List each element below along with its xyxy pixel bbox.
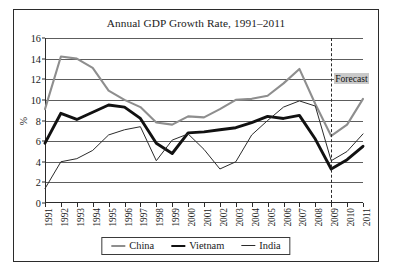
- y-tick-label: 10: [31, 94, 41, 105]
- legend-item-india: India: [241, 240, 280, 251]
- legend-label-india: India: [259, 240, 280, 251]
- x-tick-label: 2008: [314, 208, 324, 227]
- x-tick-label: 2005: [267, 208, 277, 227]
- india-line-swatch-icon: [241, 245, 255, 246]
- y-tick-label: 16: [31, 33, 41, 44]
- x-tick-label: 1994: [92, 208, 102, 227]
- y-tick-label: 8: [36, 115, 41, 126]
- x-tick-mark: [109, 203, 110, 207]
- x-tick-label: 2010: [346, 208, 356, 227]
- x-tick-label: 1997: [139, 208, 149, 227]
- x-tick-mark: [77, 203, 78, 207]
- x-tick-label: 2006: [283, 208, 293, 227]
- x-tick-label: 2003: [235, 208, 245, 227]
- x-tick-label: 1992: [60, 208, 70, 227]
- x-tick-mark: [93, 203, 94, 207]
- series-line-vietnam: [45, 105, 363, 169]
- series-line-india: [45, 101, 363, 189]
- x-tick-mark: [204, 203, 205, 207]
- x-tick-label: 1993: [76, 208, 86, 227]
- x-tick-mark: [252, 203, 253, 207]
- vietnam-line-swatch-icon: [171, 245, 185, 247]
- x-tick-label: 1999: [171, 208, 181, 227]
- x-tick-mark: [236, 203, 237, 207]
- y-tick-label: 4: [36, 156, 41, 167]
- y-tick-label: 2: [36, 177, 41, 188]
- china-line-swatch-icon: [111, 245, 125, 247]
- y-tick-label: 0: [36, 198, 41, 209]
- x-tick-mark: [363, 203, 364, 207]
- x-tick-label: 2000: [187, 208, 197, 227]
- x-tick-label: 1991: [44, 208, 54, 227]
- plot-area: 0246810121416 19911992199319941995199619…: [45, 38, 363, 203]
- forecast-label: Forecast: [334, 73, 369, 84]
- chart-legend: China Vietnam India: [101, 237, 290, 255]
- y-tick-label: 12: [31, 74, 41, 85]
- x-tick-label: 1996: [124, 208, 134, 227]
- x-tick-mark: [172, 203, 173, 207]
- x-tick-mark: [268, 203, 269, 207]
- x-tick-label: 2009: [330, 208, 340, 227]
- chart-title: Annual GDP Growth Rate, 1991–2011: [14, 17, 378, 29]
- legend-item-china: China: [111, 240, 154, 251]
- x-tick-mark: [188, 203, 189, 207]
- x-tick-mark: [331, 203, 332, 207]
- forecast-divider-line: [331, 38, 332, 203]
- series-lines-group: [45, 38, 363, 203]
- x-tick-mark: [315, 203, 316, 207]
- x-tick-label: 1998: [155, 208, 165, 227]
- x-tick-label: 2011: [362, 208, 372, 226]
- x-tick-mark: [220, 203, 221, 207]
- y-tick-label: 14: [31, 53, 41, 64]
- y-tick-label: 6: [36, 136, 41, 147]
- y-axis-title: %: [18, 116, 29, 124]
- legend-item-vietnam: Vietnam: [171, 240, 224, 251]
- x-tick-label: 2004: [251, 208, 261, 227]
- series-line-china: [45, 57, 363, 136]
- x-tick-mark: [347, 203, 348, 207]
- x-tick-mark: [140, 203, 141, 207]
- legend-label-vietnam: Vietnam: [189, 240, 224, 251]
- x-tick-mark: [125, 203, 126, 207]
- x-tick-label: 2002: [219, 208, 229, 227]
- legend-label-china: China: [129, 240, 154, 251]
- x-tick-label: 2007: [298, 208, 308, 227]
- x-tick-mark: [61, 203, 62, 207]
- chart-frame: Annual GDP Growth Rate, 1991–2011 024681…: [13, 9, 379, 262]
- x-tick-mark: [156, 203, 157, 207]
- x-tick-mark: [299, 203, 300, 207]
- x-tick-mark: [284, 203, 285, 207]
- x-tick-label: 2001: [203, 208, 213, 227]
- x-tick-mark: [45, 203, 46, 207]
- x-tick-label: 1995: [108, 208, 118, 227]
